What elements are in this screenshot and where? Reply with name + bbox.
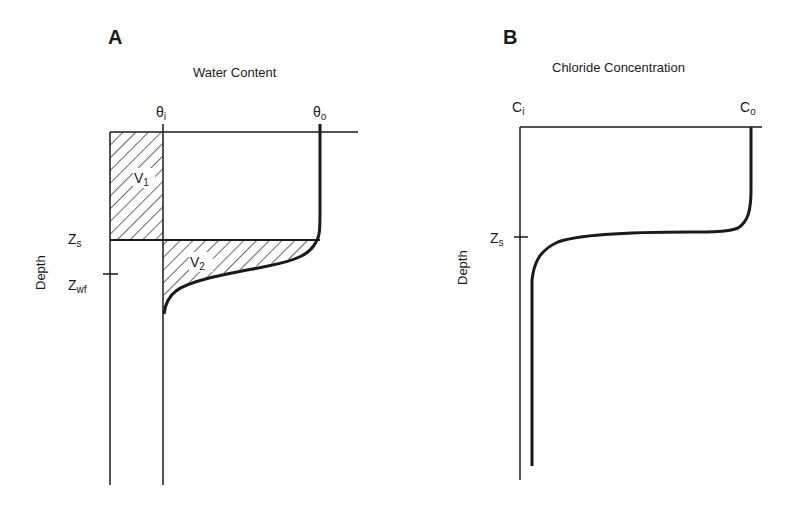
- region-v2-hatch: [163, 240, 318, 312]
- panel-a: A Water Content θi θo V1 V2 Zs Zwf Depth: [33, 26, 358, 485]
- water-content-profile-curve: [164, 124, 320, 314]
- c-o-label: Co: [740, 99, 756, 117]
- panel-b-title: Chloride Concentration: [552, 60, 685, 75]
- figure-canvas: A Water Content θi θo V1 V2 Zs Zwf Depth…: [0, 0, 786, 511]
- panel-a-depth-label: Depth: [33, 255, 48, 290]
- zs-label-a: Zs: [68, 231, 82, 249]
- zs-label-b: Zs: [490, 230, 504, 248]
- panel-a-title: Water Content: [193, 65, 277, 80]
- theta-o-label: θo: [313, 104, 327, 122]
- c-i-label: Ci: [512, 99, 524, 117]
- panel-a-label: A: [108, 26, 122, 48]
- chloride-profile-curve: [532, 127, 751, 466]
- panel-b-depth-label: Depth: [455, 250, 470, 285]
- panel-b: B Chloride Concentration Ci Co Zs Depth: [455, 26, 762, 480]
- theta-i-label: θi: [156, 104, 166, 122]
- panel-b-label: B: [503, 26, 517, 48]
- zwf-label: Zwf: [68, 277, 87, 295]
